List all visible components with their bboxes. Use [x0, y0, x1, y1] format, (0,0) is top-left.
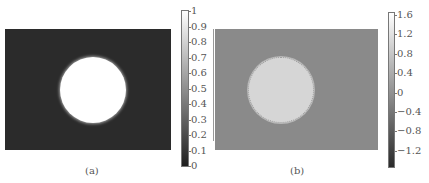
- tick-label: 0.4: [397, 68, 413, 78]
- tick-label: 1: [191, 6, 197, 16]
- colorbar-a: [181, 10, 189, 167]
- image-panel-a: [5, 29, 171, 150]
- tick-label: 0.3: [191, 115, 207, 125]
- colorbar-b: [388, 12, 395, 168]
- tick-label: −0.8: [397, 126, 421, 136]
- bright-disk: [60, 57, 126, 123]
- gray-disk: [248, 57, 314, 123]
- tick-label: 0.2: [191, 130, 207, 140]
- tick-label: 0: [397, 88, 403, 98]
- tick-label: 0.6: [191, 68, 207, 78]
- tick-label: 1.2: [397, 29, 413, 39]
- tick-label: −0.4: [397, 107, 421, 117]
- caption-b: (b): [290, 165, 304, 176]
- tick-label: 0.8: [191, 37, 207, 47]
- divider-line: [213, 29, 214, 141]
- tick-label: 0.1: [191, 146, 207, 156]
- tick-label: −1.2: [397, 146, 421, 156]
- tick-label: 0.7: [191, 53, 207, 63]
- tick-label: 0.5: [191, 84, 207, 94]
- tick-label: 1.6: [397, 10, 413, 20]
- caption-a: (a): [85, 165, 99, 176]
- tick-label: 0.8: [397, 49, 413, 59]
- image-panel-b: [215, 29, 378, 150]
- tick-label: 0: [191, 161, 197, 171]
- tick-label: 0.4: [191, 99, 207, 109]
- tick-label: 0.9: [191, 22, 207, 32]
